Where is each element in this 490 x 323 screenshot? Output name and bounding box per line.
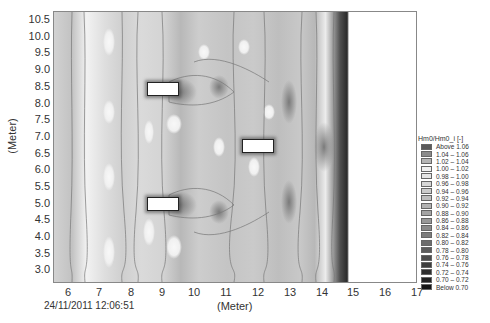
x-tick: 15 <box>343 286 363 298</box>
y-tick: 9.5 <box>20 46 50 58</box>
timestamp: 24/11/2011 12:06:51 <box>44 300 134 311</box>
x-tick: 10 <box>184 286 204 298</box>
legend-label: 0.92 – 0.94 <box>436 195 469 202</box>
legend-swatch <box>421 262 432 268</box>
legend-label: 0.94 – 0.96 <box>436 188 469 195</box>
colorbar-legend: Hm0/Hm0_i [-] Above 1.061.04 – 1.061.02 … <box>421 135 490 291</box>
legend-swatch <box>421 173 432 179</box>
legend-label: 0.88 – 0.90 <box>436 210 469 217</box>
y-tick: 7.0 <box>20 130 50 142</box>
legend-label: 0.72 – 0.74 <box>436 269 469 276</box>
y-tick: 3.0 <box>20 263 50 275</box>
legend-swatch <box>421 151 432 157</box>
y-tick: 5.0 <box>20 197 50 209</box>
legend-item: 0.96 – 0.98 <box>421 180 490 187</box>
x-tick: 8 <box>121 286 141 298</box>
legend-item: 0.94 – 0.96 <box>421 187 490 194</box>
x-tick: 13 <box>280 286 300 298</box>
x-tick: 6 <box>58 286 78 298</box>
legend-label: 0.84 – 0.86 <box>436 224 469 231</box>
legend-swatch <box>421 277 432 283</box>
y-tick: 10.0 <box>20 30 50 42</box>
legend-swatch <box>421 203 432 209</box>
y-tick: 7.5 <box>20 113 50 125</box>
legend-item: 0.98 – 1.00 <box>421 173 490 180</box>
legend-swatch <box>421 144 432 150</box>
legend-item: 0.82 – 0.84 <box>421 232 490 239</box>
legend-label: 0.70 – 0.72 <box>436 276 469 283</box>
legend-label: 1.04 – 1.06 <box>436 151 469 158</box>
legend-label: 0.74 – 0.76 <box>436 261 469 268</box>
legend-swatch <box>421 225 432 231</box>
x-tick: 12 <box>248 286 268 298</box>
legend-swatch <box>421 284 432 290</box>
legend-label: 0.78 – 0.80 <box>436 247 469 254</box>
x-tick: 16 <box>375 286 395 298</box>
legend-swatch <box>421 181 432 187</box>
legend-swatch <box>421 240 432 246</box>
y-tick: 6.5 <box>20 147 50 159</box>
legend-swatch <box>421 195 432 201</box>
legend-swatch <box>421 218 432 224</box>
legend-title: Hm0/Hm0_i [-] <box>418 135 490 142</box>
legend-item: 0.88 – 0.90 <box>421 210 490 217</box>
structure-block-lower <box>147 197 179 211</box>
y-tick: 4.5 <box>20 213 50 225</box>
legend-swatch <box>421 166 432 172</box>
legend-label: 0.86 – 0.88 <box>436 217 469 224</box>
legend-label: 0.76 – 0.78 <box>436 254 469 261</box>
legend-label: Below 0.70 <box>436 284 468 291</box>
y-tick: 9.0 <box>20 63 50 75</box>
legend-item: 0.70 – 0.72 <box>421 276 490 283</box>
y-tick: 4.0 <box>20 230 50 242</box>
legend-swatch <box>421 255 432 261</box>
legend-item: Above 1.06 <box>421 143 490 150</box>
y-axis-label: (Meter) <box>6 118 18 153</box>
legend-item: 0.78 – 0.80 <box>421 246 490 253</box>
x-axis-label: (Meter) <box>217 300 252 312</box>
legend-item: 0.90 – 0.92 <box>421 202 490 209</box>
legend-swatch <box>421 232 432 238</box>
legend-item: 0.84 – 0.86 <box>421 224 490 231</box>
y-tick: 8.5 <box>20 80 50 92</box>
plot-area <box>53 11 417 283</box>
structure-block-upper <box>147 82 179 96</box>
x-tick: 9 <box>152 286 172 298</box>
legend-label: 0.96 – 0.98 <box>436 180 469 187</box>
y-tick: 3.5 <box>20 247 50 259</box>
y-tick: 10.5 <box>20 13 50 25</box>
legend-label: 0.80 – 0.82 <box>436 239 469 246</box>
legend-item: Below 0.70 <box>421 283 490 290</box>
legend-item: 0.86 – 0.88 <box>421 217 490 224</box>
legend-swatch <box>421 188 432 194</box>
y-tick: 5.5 <box>20 180 50 192</box>
legend-item: 1.02 – 1.04 <box>421 158 490 165</box>
legend-label: 1.00 – 1.02 <box>436 165 469 172</box>
legend-swatch <box>421 158 432 164</box>
legend-item: 0.74 – 0.76 <box>421 261 490 268</box>
x-tick: 14 <box>312 286 332 298</box>
x-tick: 11 <box>216 286 236 298</box>
contour-field <box>54 12 416 282</box>
legend-label: 0.98 – 1.00 <box>436 173 469 180</box>
legend-item: 1.04 – 1.06 <box>421 150 490 157</box>
legend-label: Above 1.06 <box>436 143 469 150</box>
legend-label: 1.02 – 1.04 <box>436 158 469 165</box>
legend-label: 0.82 – 0.84 <box>436 232 469 239</box>
legend-item: 1.00 – 1.02 <box>421 165 490 172</box>
legend-item: 0.72 – 0.74 <box>421 269 490 276</box>
x-tick: 7 <box>89 286 109 298</box>
legend-label: 0.90 – 0.92 <box>436 202 469 209</box>
legend-swatch <box>421 247 432 253</box>
legend-swatch <box>421 210 432 216</box>
legend-item: 0.76 – 0.78 <box>421 254 490 261</box>
legend-swatch <box>421 269 432 275</box>
y-tick: 6.0 <box>20 163 50 175</box>
legend-item: 0.92 – 0.94 <box>421 195 490 202</box>
structure-block-right <box>242 139 274 153</box>
y-tick: 8.0 <box>20 97 50 109</box>
legend-item: 0.80 – 0.82 <box>421 239 490 246</box>
